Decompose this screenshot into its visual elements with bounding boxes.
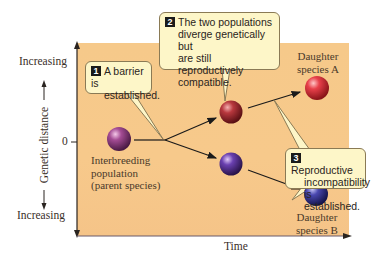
- callout-barrier: 1A barrier is established.: [85, 61, 152, 94]
- intermediate-lower-node: [220, 153, 243, 176]
- y-axis-zero-label: 0: [62, 135, 68, 147]
- parent-species-node: [107, 127, 131, 151]
- step-number-badge: 3: [291, 153, 301, 163]
- step-number-badge: 2: [165, 17, 175, 27]
- y-axis-label: Genetic distance: [38, 107, 50, 183]
- y-axis-bottom-label: Increasing: [17, 209, 65, 221]
- y-axis-top-label: Increasing: [19, 55, 67, 67]
- callout-incompatibility: 3Reproductive incompatibility is establi…: [285, 148, 366, 189]
- step-number-badge: 1: [91, 66, 101, 76]
- callout-diverge: 2The two populations diverge genetically…: [159, 12, 280, 70]
- daughter-a-label: Daughter species A: [297, 50, 339, 75]
- x-axis-label: Time: [224, 240, 248, 252]
- parent-species-label: Interbreeding population (parent species…: [91, 154, 160, 192]
- daughter-b-label: Daughter species B: [296, 211, 338, 236]
- intermediate-upper-node: [220, 101, 243, 124]
- daughter-a-node: [305, 76, 329, 100]
